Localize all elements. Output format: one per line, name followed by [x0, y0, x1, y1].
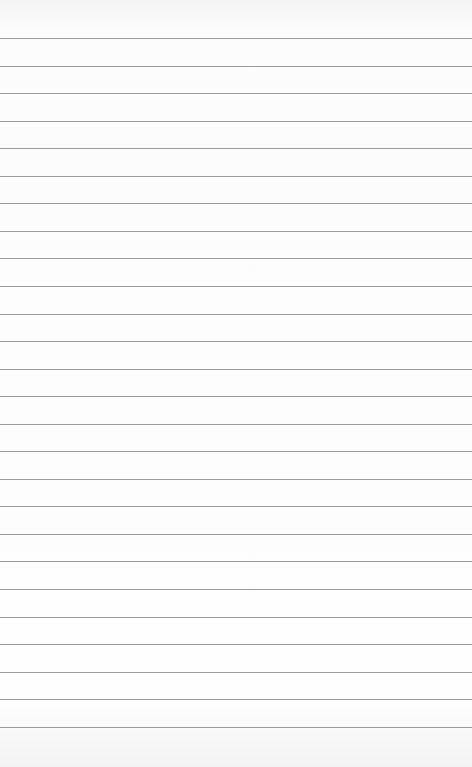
- ruled-line: [0, 589, 472, 590]
- ruled-line: [0, 534, 472, 535]
- ruled-line: [0, 672, 472, 673]
- ruled-line: [0, 479, 472, 480]
- ruled-line: [0, 451, 472, 452]
- ruled-line: [0, 93, 472, 94]
- ruled-line: [0, 203, 472, 204]
- ruled-line: [0, 231, 472, 232]
- ruled-line: [0, 148, 472, 149]
- ruled-line: [0, 699, 472, 700]
- ruled-line: [0, 561, 472, 562]
- ruled-line: [0, 66, 472, 67]
- ruled-line: [0, 396, 472, 397]
- ruled-line: [0, 38, 472, 39]
- lined-paper-sheet: [0, 0, 472, 767]
- ruled-line: [0, 424, 472, 425]
- ruled-line: [0, 176, 472, 177]
- ruled-line: [0, 286, 472, 287]
- ruled-line: [0, 369, 472, 370]
- ruled-line: [0, 121, 472, 122]
- ruled-line: [0, 617, 472, 618]
- ruled-line: [0, 506, 472, 507]
- ruled-line: [0, 341, 472, 342]
- ruled-line: [0, 644, 472, 645]
- ruled-line: [0, 258, 472, 259]
- ruled-line: [0, 314, 472, 315]
- ruled-line: [0, 727, 472, 728]
